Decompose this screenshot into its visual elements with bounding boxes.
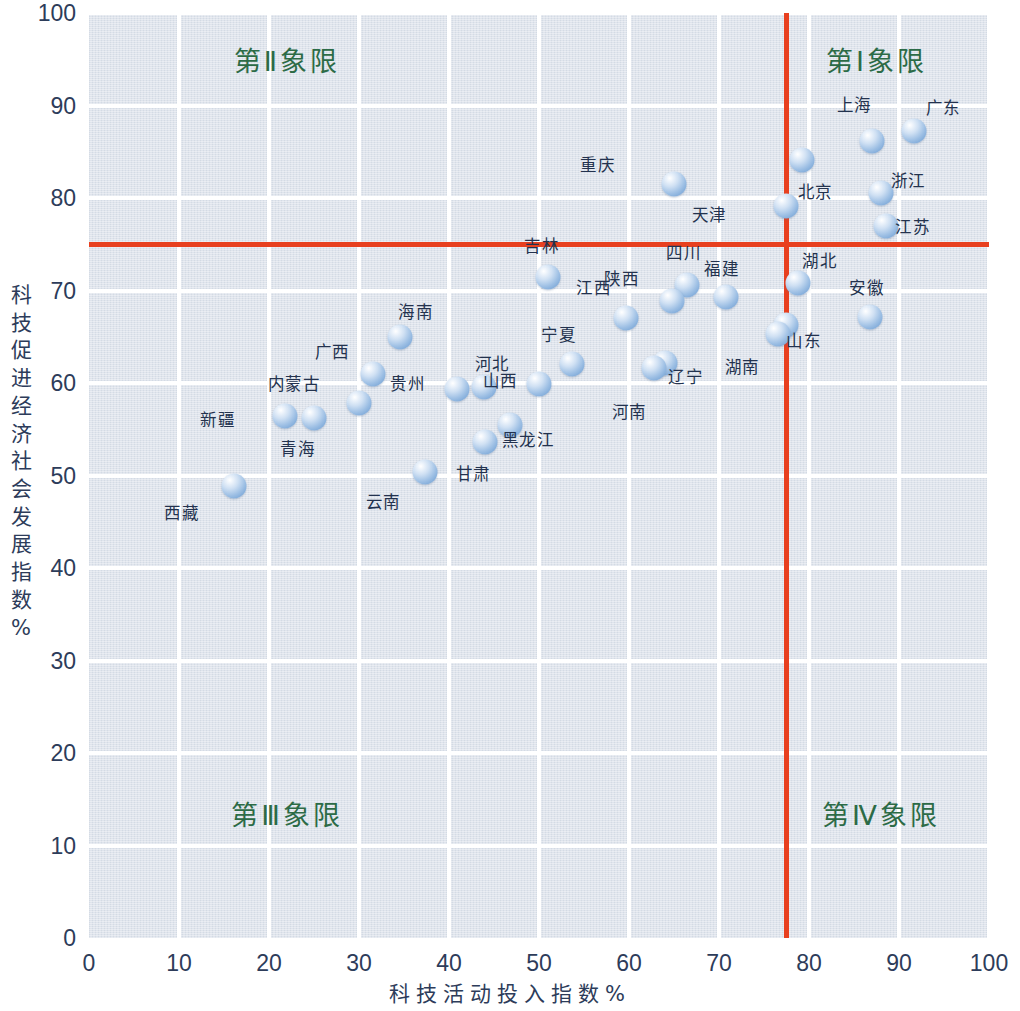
- data-point-label: 湖南: [725, 354, 760, 378]
- quadrant-label-q2: 第Ⅱ象限: [234, 40, 340, 79]
- data-point[interactable]: [273, 404, 298, 429]
- scatter-quadrant-chart: 科技促进经济社会发展指数 % 0102030405060708090100 第Ⅰ…: [0, 0, 1020, 1011]
- data-point[interactable]: [347, 391, 372, 416]
- y-tick-label: 80: [16, 185, 76, 212]
- data-point-label: 江苏: [895, 214, 930, 238]
- reference-line-vertical: [784, 13, 789, 938]
- data-point[interactable]: [527, 371, 552, 396]
- data-point-label: 海南: [398, 299, 433, 323]
- data-point[interactable]: [445, 377, 470, 402]
- data-point-label: 上海: [837, 92, 872, 116]
- x-tick-label: 90: [869, 950, 929, 977]
- x-tick-label: 10: [149, 950, 209, 977]
- x-tick-label: 100: [959, 950, 1019, 977]
- data-point[interactable]: [789, 148, 814, 173]
- data-point-label: 内蒙古: [268, 371, 321, 395]
- x-axis-title: 科技活动投入指数%: [0, 977, 1020, 1007]
- data-point[interactable]: [221, 473, 246, 498]
- gridline-horizontal: [89, 844, 989, 848]
- data-point-label: 黑龙江: [502, 427, 555, 451]
- y-tick-label: 10: [16, 832, 76, 859]
- x-tick-label: 70: [689, 950, 749, 977]
- data-point[interactable]: [536, 264, 561, 289]
- gridline-horizontal: [89, 566, 989, 570]
- data-point-label: 浙江: [891, 168, 926, 192]
- x-tick-label: 20: [239, 950, 299, 977]
- y-tick-label: 50: [16, 462, 76, 489]
- data-point[interactable]: [786, 271, 811, 296]
- x-tick-label: 30: [329, 950, 389, 977]
- plot-area: 第Ⅰ象限第Ⅱ象限第Ⅲ象限第Ⅳ象限 广东上海北京重庆浙江天津江苏吉林四川湖北福建陕…: [89, 13, 989, 938]
- data-point-label: 广西: [315, 339, 350, 363]
- data-point-label: 贵州: [390, 371, 425, 395]
- data-point-label: 辽宁: [668, 364, 703, 388]
- data-point-label: 四川: [666, 240, 701, 264]
- data-point[interactable]: [714, 284, 739, 309]
- data-point[interactable]: [473, 430, 498, 455]
- data-point-label: 甘肃: [456, 461, 491, 485]
- data-point-label: 山西: [483, 368, 518, 392]
- data-point-label: 云南: [366, 489, 401, 513]
- x-tick-label: 40: [419, 950, 479, 977]
- data-point[interactable]: [662, 172, 687, 197]
- quadrant-label-q3: 第Ⅲ象限: [231, 794, 343, 833]
- data-point[interactable]: [860, 128, 885, 153]
- data-point[interactable]: [642, 356, 667, 381]
- data-point[interactable]: [302, 406, 327, 431]
- data-point-label: 山东: [786, 328, 821, 352]
- data-point-label: 新疆: [200, 407, 235, 431]
- data-point[interactable]: [388, 324, 413, 349]
- data-point-label: 青海: [280, 436, 315, 460]
- data-point[interactable]: [773, 194, 798, 219]
- data-point-label: 河南: [612, 399, 647, 423]
- data-point-label: 北京: [798, 179, 833, 203]
- data-point-label: 吉林: [524, 233, 559, 257]
- y-tick-label: 30: [16, 647, 76, 674]
- data-point-label: 西藏: [164, 500, 199, 524]
- x-tick-label: 80: [779, 950, 839, 977]
- x-tick-label: 60: [599, 950, 659, 977]
- x-tick-label: 0: [59, 950, 119, 977]
- y-tick-label: 90: [16, 92, 76, 119]
- data-point-label: 江西: [576, 275, 611, 299]
- data-point-label: 宁夏: [541, 322, 576, 346]
- gridline-horizontal: [89, 196, 989, 200]
- data-point[interactable]: [660, 288, 685, 313]
- gridline-horizontal: [89, 659, 989, 663]
- data-point-label: 湖北: [802, 248, 837, 272]
- data-point[interactable]: [412, 459, 437, 484]
- quadrant-label-q1: 第Ⅰ象限: [826, 40, 927, 79]
- y-tick-label: 60: [16, 370, 76, 397]
- quadrant-label-q4: 第Ⅳ象限: [822, 794, 940, 833]
- gridline-horizontal: [89, 13, 989, 15]
- data-point[interactable]: [858, 305, 883, 330]
- data-point[interactable]: [902, 119, 927, 144]
- data-point[interactable]: [614, 306, 639, 331]
- y-tick-label: 100: [16, 0, 76, 27]
- data-point[interactable]: [360, 361, 385, 386]
- y-tick-label: 0: [16, 925, 76, 952]
- data-point-label: 天津: [692, 202, 727, 226]
- data-point[interactable]: [560, 351, 585, 376]
- data-point-label: 广东: [926, 95, 961, 119]
- data-point-label: 重庆: [580, 152, 615, 176]
- data-point-label: 福建: [704, 256, 739, 280]
- y-tick-label: 20: [16, 740, 76, 767]
- data-point-label: 安徽: [849, 275, 884, 299]
- gridline-horizontal: [89, 751, 989, 755]
- y-tick-label: 70: [16, 277, 76, 304]
- x-tick-label: 50: [509, 950, 569, 977]
- y-tick-label: 40: [16, 555, 76, 582]
